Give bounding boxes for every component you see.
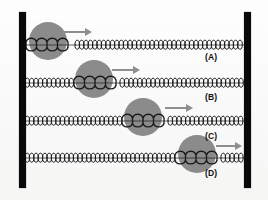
row-label-c: (C): [205, 131, 217, 141]
motion-arrow: [64, 27, 92, 36]
motion-arrow: [112, 65, 140, 74]
left-wall: [19, 12, 26, 188]
right-wall: [244, 12, 251, 188]
spring-coil: [122, 114, 164, 127]
row-label-d: (D): [205, 168, 217, 178]
arrow-shaft: [216, 145, 236, 147]
motion-arrow: [165, 103, 193, 112]
arrow-head-icon: [235, 142, 242, 150]
arrow-shaft: [165, 107, 187, 109]
figure-canvas: (A)(B)(C)(D): [0, 0, 268, 200]
spring-coil: [25, 153, 175, 162]
row-label-a: (A): [205, 52, 217, 62]
motion-arrow: [216, 141, 242, 150]
arrow-head-icon: [85, 28, 92, 36]
arrow-head-icon: [133, 66, 140, 74]
arrow-shaft: [112, 69, 134, 71]
spring-coil: [74, 76, 116, 89]
spring-coil: [175, 151, 217, 164]
spring-coil: [26, 38, 68, 51]
spring-layer: [0, 0, 268, 200]
arrow-head-icon: [186, 104, 193, 112]
arrow-shaft: [64, 31, 86, 33]
row-label-b: (B): [205, 92, 217, 102]
